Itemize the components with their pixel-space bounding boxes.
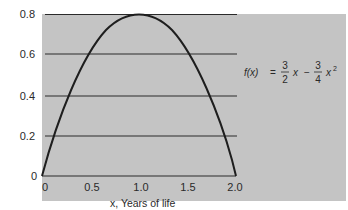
formula-term1-var: x: [292, 67, 299, 78]
y-tick-0: 0: [31, 170, 37, 182]
x-tick-0: 0: [42, 181, 48, 193]
formula-term2-var: x: [325, 67, 332, 78]
formula-equals: =: [270, 67, 276, 78]
y-tick-0.2: 0.2: [20, 130, 35, 142]
formula-term1-den: 2: [282, 74, 288, 85]
y-tick-0.6: 0.6: [20, 48, 35, 60]
x-tick-2.0: 2.0: [227, 181, 242, 193]
y-tick-0.8: 0.8: [20, 8, 35, 20]
formula-minus: −: [304, 67, 310, 78]
plot-background: [42, 14, 346, 201]
chart: 0.8 0.6 0.4 0.2 0 0 0.5 1.0 1.5 2.0 x, Y…: [0, 0, 348, 210]
x-axis-label: x, Years of life: [110, 197, 176, 209]
formula-term2-num: 3: [315, 60, 321, 71]
x-tick-1.0: 1.0: [133, 181, 148, 193]
x-tick-1.5: 1.5: [180, 181, 195, 193]
y-tick-0.4: 0.4: [20, 90, 35, 102]
formula-term2-den: 4: [315, 74, 321, 85]
formula-term1-num: 3: [282, 60, 288, 71]
formula-lhs: f(x): [244, 67, 258, 78]
x-tick-0.5: 0.5: [84, 181, 99, 193]
formula-term2-exp: 2: [333, 65, 337, 72]
